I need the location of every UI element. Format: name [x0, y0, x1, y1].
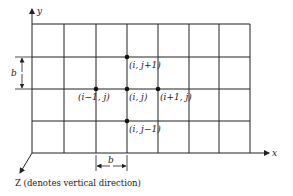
- node-label-i-jplus1: (i, j+1): [129, 60, 161, 70]
- node-i-j: [125, 87, 130, 92]
- axes: [20, 9, 269, 173]
- vertical-spacing-label: b: [11, 68, 17, 78]
- z-axis: [20, 153, 32, 173]
- node-label-iplus1-j: (i+1, j): [160, 92, 192, 102]
- node-iminus1-j: [94, 87, 99, 92]
- node-label-i-j: (i, j): [129, 92, 148, 102]
- node-label-iminus1-j: (i−1, j): [78, 92, 110, 102]
- vertical-spacing-dimension: [15, 57, 32, 89]
- node-i-jminus1: [125, 119, 130, 124]
- z-axis-caption: Z (denotes vertical direction): [15, 178, 141, 188]
- node-label-i-jminus1: (i, j−1): [129, 124, 161, 134]
- node-iplus1-j: [156, 87, 161, 92]
- node-i-jplus1: [125, 55, 130, 60]
- x-axis-label: x: [272, 148, 277, 158]
- finite-difference-grid-diagram: y x Z (denotes vertical direction) b b (…: [0, 0, 293, 196]
- y-axis-label: y: [36, 6, 43, 16]
- horizontal-spacing-label: b: [108, 155, 114, 165]
